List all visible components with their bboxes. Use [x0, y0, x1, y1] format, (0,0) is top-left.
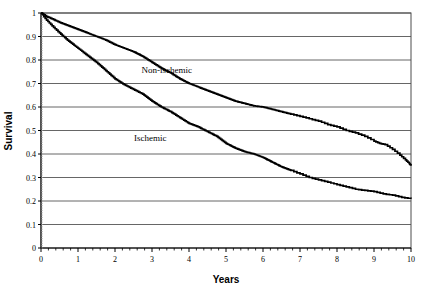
x-tick-label: 9 [372, 255, 376, 264]
x-tick-label: 7 [298, 255, 302, 264]
survival-curve-figure: 00.10.20.30.40.50.60.70.80.91 0123456789… [0, 0, 425, 294]
y-tick-label: 0.1 [26, 221, 36, 230]
x-tick-label: 4 [187, 255, 191, 264]
x-tick-label: 5 [224, 255, 228, 264]
y-tick-label: 0.5 [26, 127, 36, 136]
x-tick-label: 1 [76, 255, 80, 264]
x-tick-label: 2 [113, 255, 117, 264]
cropped-caption-strip [0, 286, 425, 294]
x-tick-label: 3 [150, 255, 154, 264]
y-tick-label: 0.9 [26, 33, 36, 42]
y-axis-minor-ticks [41, 13, 43, 248]
annotation-ischemic: Ischemic [134, 133, 166, 143]
y-tick-label: 0.8 [26, 56, 36, 65]
x-tick-label: 0 [39, 255, 43, 264]
y-tick-label: 0.6 [26, 103, 36, 112]
y-tick-label: 0.2 [26, 197, 36, 206]
x-tick-label: 10 [407, 255, 415, 264]
y-tick-label: 1 [32, 9, 36, 18]
y-tick-label: 0.4 [26, 150, 36, 159]
y-axis-title: Survival [3, 111, 14, 150]
y-tick-label: 0.7 [26, 80, 36, 89]
x-axis-title: Years [213, 274, 240, 285]
figure-background [0, 0, 425, 294]
y-tick-label: 0.3 [26, 174, 36, 183]
kaplan-meier-chart: 00.10.20.30.40.50.60.70.80.91 0123456789… [0, 0, 425, 294]
annotation-non-ischemic: Non-ischemic [142, 65, 192, 75]
x-tick-label: 6 [261, 255, 265, 264]
x-tick-label: 8 [335, 255, 339, 264]
y-tick-label: 0 [32, 244, 36, 253]
